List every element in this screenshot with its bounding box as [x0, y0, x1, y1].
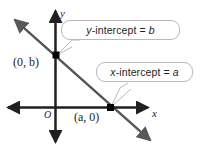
y-intercept-callout: y-intercept=b — [61, 20, 180, 40]
y-intercept-point-marker — [53, 52, 60, 59]
x-callout-text: -intercept — [116, 66, 161, 78]
x-intercept-callout: x-intercept=a — [96, 62, 193, 82]
y-callout-equals: = — [136, 24, 148, 36]
x-callout-equals: = — [160, 66, 172, 78]
figure-canvas: y x O (0, b) (a, 0) y-intercept=b x-inte… — [0, 0, 203, 153]
x-callout-value: a — [173, 66, 179, 78]
x-callout-leader — [111, 83, 131, 107]
origin-label: O — [44, 110, 51, 120]
y-callout-value: b — [149, 24, 155, 36]
y-callout-leader — [57, 40, 80, 55]
y-callout-text: -intercept — [92, 24, 137, 36]
x-axis-label: x — [152, 108, 157, 119]
y-axis-label: y — [60, 8, 65, 19]
x-intercept-point-marker — [107, 104, 114, 111]
x-intercept-point-label: (a, 0) — [74, 111, 99, 123]
y-intercept-point-label: (0, b) — [13, 56, 39, 68]
